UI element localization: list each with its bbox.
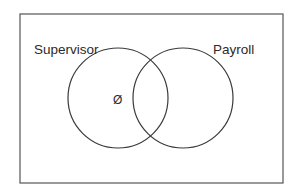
- payroll-set-circle: [133, 48, 233, 148]
- venn-diagram: Supervisor Payroll Ø: [0, 0, 299, 196]
- universe-rectangle: [20, 14, 283, 183]
- payroll-label: Payroll: [213, 42, 254, 57]
- empty-set-symbol: Ø: [113, 93, 122, 107]
- supervisor-label: Supervisor: [34, 42, 99, 57]
